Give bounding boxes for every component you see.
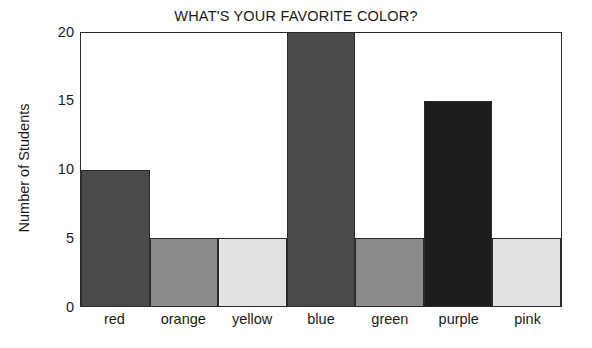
y-tick-5: 5 xyxy=(48,230,74,246)
y-axis-label: Number of Students xyxy=(16,78,32,258)
bar-red xyxy=(81,170,150,307)
x-axis-tick-labels: red orange yellow blue green purple pink xyxy=(80,311,562,327)
x-tick-purple: purple xyxy=(424,311,493,327)
y-tick-15: 15 xyxy=(48,92,74,108)
bar-green xyxy=(355,238,424,306)
bar-purple xyxy=(424,101,493,306)
x-tick-red: red xyxy=(80,311,149,327)
page-title: WHAT'S YOUR FAVORITE COLOR? xyxy=(0,8,592,24)
chart-page: WHAT'S YOUR FAVORITE COLOR? Number of St… xyxy=(0,0,592,348)
bar-yellow xyxy=(218,238,287,306)
bar-blue xyxy=(287,33,356,306)
x-tick-green: green xyxy=(355,311,424,327)
x-tick-yellow: yellow xyxy=(218,311,287,327)
bar-orange xyxy=(150,238,219,306)
y-tick-0: 0 xyxy=(48,299,74,315)
x-tick-orange: orange xyxy=(149,311,218,327)
plot-area xyxy=(80,32,562,307)
x-tick-blue: blue xyxy=(287,311,356,327)
x-tick-pink: pink xyxy=(493,311,562,327)
bar-series xyxy=(81,33,561,306)
bar-pink xyxy=(492,238,561,306)
y-tick-20: 20 xyxy=(48,24,74,40)
y-tick-10: 10 xyxy=(48,161,74,177)
